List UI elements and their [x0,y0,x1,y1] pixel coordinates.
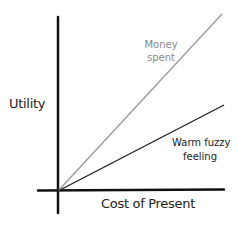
warm-fuzzy-annotation-line2: feeling [172,150,228,164]
money-spent-annotation-line1: Money [141,38,181,51]
x-axis [38,190,224,191]
chart-canvas [0,0,238,228]
warm-fuzzy-annotation-line1: Warm fuzzy [172,136,228,150]
x-axis-label: Cost of Present [101,196,195,211]
warm-fuzzy-annotation: Warm fuzzy feeling [172,136,228,164]
y-axis-label: Utility [9,96,45,111]
money-spent-line [58,14,222,191]
money-spent-annotation-line2: spent [141,51,181,64]
money-spent-annotation: Money spent [141,38,181,64]
